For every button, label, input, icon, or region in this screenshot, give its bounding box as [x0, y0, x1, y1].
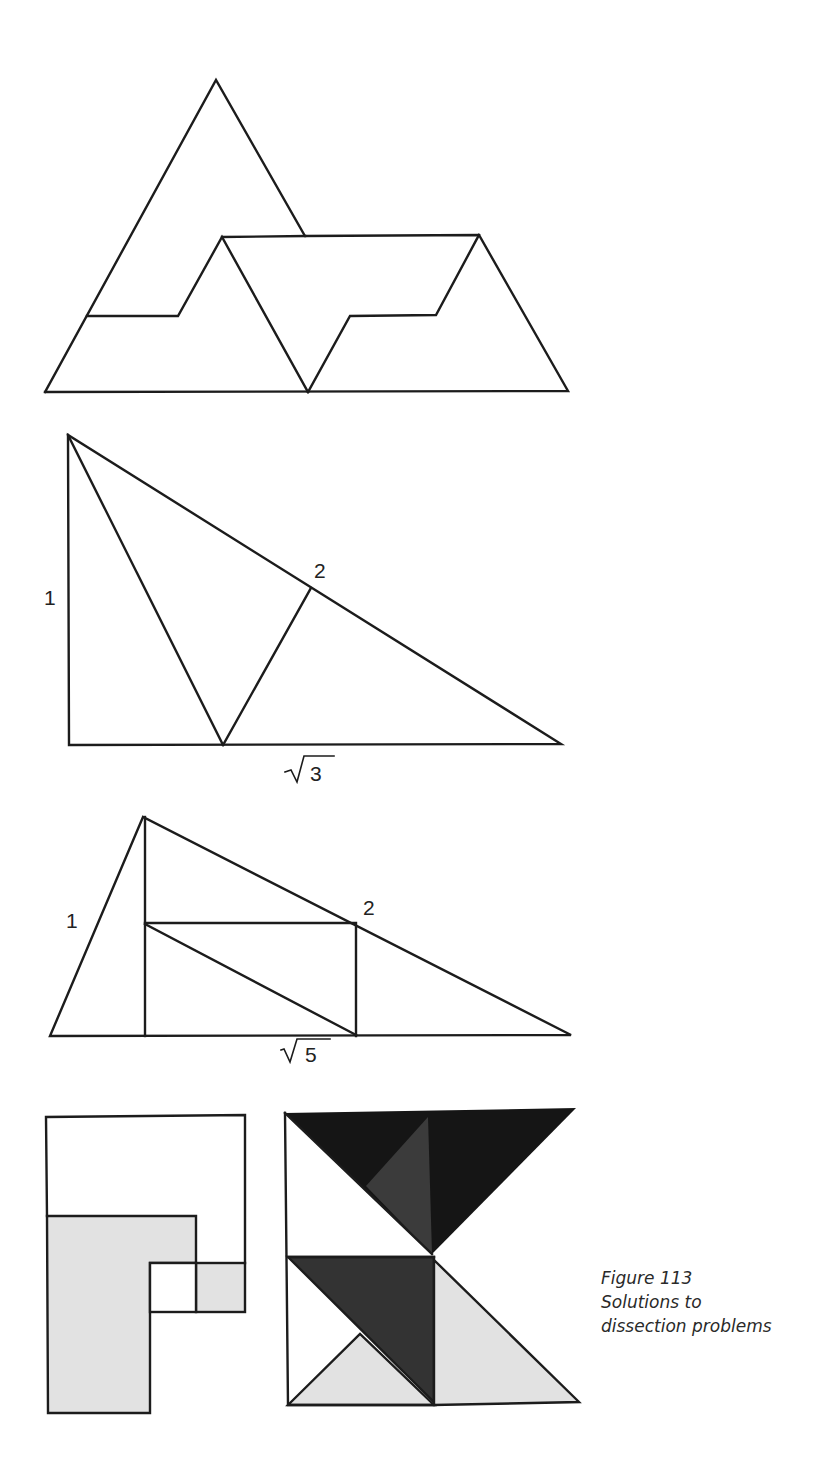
- right-step-cut: [308, 235, 479, 392]
- light-right-triangle: [434, 1260, 579, 1405]
- figure-canvas: 1 2 3 1 2 5: [0, 0, 833, 1470]
- diagram-right-triangle-sqrt3: 1 2 3: [44, 435, 561, 785]
- caption-line-3: dissection problems: [601, 1314, 772, 1338]
- label-point-2: 2: [363, 896, 375, 919]
- left-step-cut: [87, 237, 308, 392]
- diagram-square-triangle-dissection: [285, 1108, 579, 1405]
- label-base-radicand: 3: [310, 762, 322, 785]
- label-side-1: 1: [44, 586, 56, 609]
- rectangle-diagonal: [145, 924, 356, 1035]
- gray-small-square: [196, 1263, 245, 1312]
- diagram-triangle-dissection: [45, 80, 568, 392]
- cut-apex-to-base: [68, 435, 223, 745]
- outer-triangle: [68, 435, 561, 745]
- gray-L-piece: [47, 1216, 196, 1413]
- label-side-1: 1: [66, 909, 78, 932]
- diagram-triangle-sqrt5: 1 2 5: [50, 817, 571, 1066]
- caption-line-figure-number: Figure 113: [601, 1266, 772, 1290]
- cut-base-to-hypotenuse: [223, 588, 311, 745]
- label-base-radicand: 5: [305, 1043, 317, 1066]
- outer-outline: [45, 80, 568, 392]
- figure-caption: Figure 113 Solutions to dissection probl…: [601, 1266, 772, 1338]
- outer-triangle: [50, 817, 571, 1036]
- white-small-square: [150, 1263, 196, 1312]
- trapezoid-top: [222, 236, 305, 237]
- caption-line-2: Solutions to: [601, 1290, 772, 1314]
- label-point-2: 2: [314, 559, 326, 582]
- diagram-square-L-dissection: [46, 1115, 245, 1413]
